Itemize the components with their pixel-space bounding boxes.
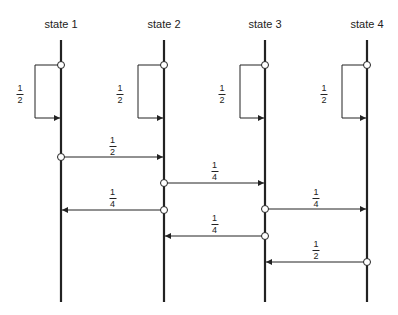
denominator: 2 [321,96,326,105]
numerator: 1 [313,240,318,249]
self-loop-probability: 12 [117,84,124,105]
transition-origin-node [58,154,65,161]
self-loop-arrow [35,65,61,118]
state-2-label: state 2 [147,18,180,30]
transition-probability: 12 [313,240,320,261]
transition-probability: 12 [109,136,116,157]
numerator: 1 [110,136,115,145]
loop-origin-node [161,62,168,69]
transition-probability: 14 [211,161,218,182]
numerator: 1 [219,84,224,93]
denominator: 2 [313,252,318,261]
numerator: 1 [212,161,217,170]
numerator: 1 [110,188,115,197]
denominator: 4 [110,200,115,209]
transition-origin-node [262,206,269,213]
numerator: 1 [117,84,122,93]
transition-probability: 14 [109,188,116,209]
transition-probability: 14 [313,188,320,209]
loop-origin-node [364,62,371,69]
state-1-label: state 1 [44,18,77,30]
transition-origin-node [161,180,168,187]
loop-origin-node [262,62,269,69]
self-loop-probability: 12 [17,84,24,105]
state-3-label: state 3 [248,18,281,30]
denominator: 2 [219,96,224,105]
markov-chain-diagram: state 1state 2state 3state 4121212121214… [0,0,398,315]
denominator: 4 [212,173,217,182]
transition-probability: 14 [211,214,218,235]
denominator: 4 [212,226,217,235]
numerator: 1 [17,84,22,93]
denominator: 4 [313,200,318,209]
numerator: 1 [212,214,217,223]
transition-origin-node [364,259,371,266]
self-loop-probability: 12 [219,84,226,105]
loop-origin-node [58,62,65,69]
self-loop-probability: 12 [321,84,328,105]
denominator: 2 [17,96,22,105]
self-loop-arrow [342,65,367,118]
diagram-canvas [0,0,398,315]
denominator: 2 [110,148,115,157]
self-loop-arrow [240,65,265,118]
transition-origin-node [161,207,168,214]
numerator: 1 [313,188,318,197]
numerator: 1 [321,84,326,93]
self-loop-arrow [138,65,164,118]
denominator: 2 [117,96,122,105]
state-4-label: state 4 [350,18,383,30]
transition-origin-node [262,233,269,240]
